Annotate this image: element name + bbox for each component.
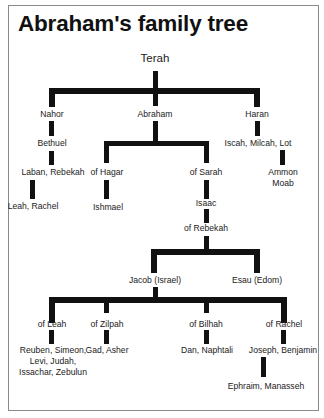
connector-line <box>280 150 285 165</box>
node-bethuel: Bethuel <box>37 138 66 149</box>
node-leah-sons-3: Issachar, Zebulun <box>19 367 87 378</box>
node-nahor: Nahor <box>40 109 63 120</box>
connector-line <box>261 357 266 377</box>
node-of-rebekah: of Rebekah <box>184 223 228 234</box>
connector-line <box>49 88 260 94</box>
connector-line <box>255 121 260 136</box>
node-leah-sons-1: Reuben, Simeon, <box>20 345 86 356</box>
node-rachel-sons: Joseph, Benjamin <box>249 345 317 356</box>
connector-line <box>30 180 35 199</box>
connector-line <box>204 330 209 344</box>
node-zilpah-sons: Gad, Asher <box>86 345 129 356</box>
connector-line <box>151 249 260 255</box>
node-esau: Esau (Edom) <box>232 275 282 286</box>
connector-line <box>254 249 260 273</box>
connector-line <box>49 151 54 165</box>
node-leah-rachel: Leah, Rachel <box>8 201 59 212</box>
node-laban-rebekah: Laban, Rebekah <box>21 167 84 178</box>
node-bilhah-sons: Dan, Naphtali <box>181 345 233 356</box>
connector-line <box>49 303 54 313</box>
node-of-leah: of Leah <box>38 319 67 330</box>
connector-line <box>104 180 109 199</box>
connector-line <box>104 141 109 163</box>
connector-line <box>281 330 286 344</box>
node-leah-sons-2: Levi, Judah, <box>30 356 76 367</box>
node-haran: Haran <box>245 109 268 120</box>
connector-line <box>104 297 109 313</box>
node-terah: Terah <box>141 51 170 65</box>
node-ammon: Ammon <box>268 167 298 178</box>
connector-line <box>104 330 109 344</box>
page-title: Abraham's family tree <box>18 11 248 37</box>
connector-line <box>204 180 209 199</box>
node-jacob: Jacob (Israel) <box>129 275 181 286</box>
node-iscah-milcah-lot: Iscah, Milcah, Lot <box>225 138 292 149</box>
connector-line <box>151 249 157 273</box>
connector-line <box>49 330 54 344</box>
node-of-hagar: of Hagar <box>91 167 124 178</box>
connector-line <box>49 121 54 136</box>
connector-line <box>204 141 209 163</box>
node-abraham: Abraham <box>138 109 173 120</box>
node-of-zilpah: of Zilpah <box>91 319 124 330</box>
connector-line <box>104 141 209 146</box>
node-of-sarah: of Sarah <box>190 167 223 178</box>
node-moab: Moab <box>272 178 294 189</box>
connector-line <box>49 297 287 303</box>
node-isaac: Isaac <box>196 198 217 209</box>
connector-line <box>204 297 209 313</box>
node-ishmael: Ishmael <box>93 202 123 213</box>
connector-line <box>254 88 260 107</box>
node-joseph-sons: Ephraim, Manasseh <box>228 381 304 392</box>
connector-line <box>49 88 55 107</box>
node-of-rachel: of Rachel <box>266 319 302 330</box>
connector-line <box>204 209 209 223</box>
node-of-bilhah: of Bilhah <box>189 319 222 330</box>
